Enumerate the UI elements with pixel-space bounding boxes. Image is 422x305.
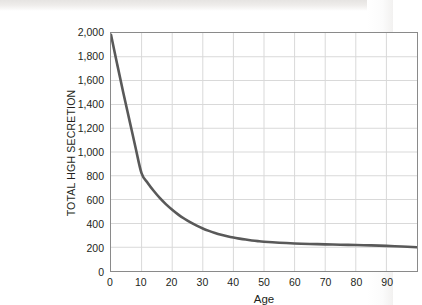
data-series-line xyxy=(111,33,417,271)
plot-area xyxy=(110,32,418,272)
x-tick-label: 0 xyxy=(107,276,113,288)
y-tick-label: 1,800 xyxy=(78,50,104,62)
y-axis-title: TOTAL HGH SECRETION xyxy=(65,58,77,248)
x-tick-label: 70 xyxy=(320,276,332,288)
x-tick-label: 40 xyxy=(227,276,239,288)
y-tick-label: 1,400 xyxy=(78,98,104,110)
y-tick-label: 800 xyxy=(86,170,104,182)
y-tick-label: 600 xyxy=(86,194,104,206)
x-tick-label: 50 xyxy=(258,276,270,288)
x-tick-label: 80 xyxy=(351,276,363,288)
y-tick-label: 0 xyxy=(98,266,104,278)
y-tick-label: 200 xyxy=(86,242,104,254)
x-tick-label: 20 xyxy=(166,276,178,288)
y-tick-label: 2,000 xyxy=(78,26,104,38)
scan-shadow-top xyxy=(0,0,393,11)
x-tick-label: 10 xyxy=(135,276,147,288)
x-axis-title: Age xyxy=(110,293,418,305)
series-path xyxy=(111,35,417,247)
hgh-secretion-line-chart: TOTAL HGH SECRETION 02004006008001,0001,… xyxy=(40,16,422,305)
x-tick-label: 30 xyxy=(197,276,209,288)
y-tick-label: 1,000 xyxy=(78,146,104,158)
x-tick-label: 90 xyxy=(381,276,393,288)
y-tick-label: 1,200 xyxy=(78,122,104,134)
x-tick-label: 60 xyxy=(289,276,301,288)
y-tick-label: 1,600 xyxy=(78,74,104,86)
y-tick-label: 400 xyxy=(86,218,104,230)
